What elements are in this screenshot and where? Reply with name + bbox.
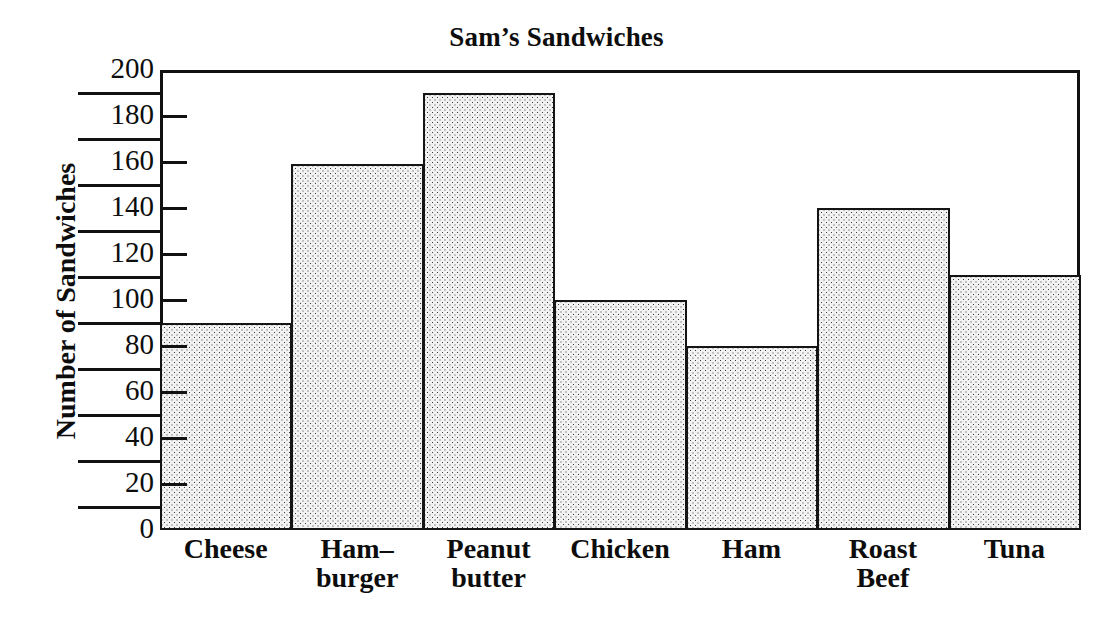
x-axis-label-line: Ham	[686, 534, 817, 563]
x-axis-label: Tuna	[949, 534, 1080, 563]
x-axis-label: Ham–burger	[291, 534, 422, 593]
y-axis-rule	[78, 322, 162, 325]
y-axis-tick-label: 200	[58, 52, 154, 85]
y-axis-tick	[161, 391, 187, 394]
y-axis-rule	[78, 506, 162, 509]
y-axis-tick-label: 40	[58, 420, 154, 453]
x-axis-label-line: Tuna	[949, 534, 1080, 563]
x-axis-labels: CheeseHam–burgerPeanutbutterChickenHamRo…	[160, 534, 1080, 624]
bars-layer	[160, 70, 1080, 530]
y-axis-tick	[161, 207, 187, 210]
bar-chart: Sam’s Sandwiches Number of Sandwiches Ch…	[0, 0, 1113, 627]
y-axis-rule	[78, 138, 162, 141]
y-axis-tick-label: 0	[58, 512, 154, 545]
x-axis-label: Chicken	[554, 534, 685, 563]
y-axis-tick-label: 180	[58, 98, 154, 131]
bar	[160, 323, 292, 530]
y-axis-rule	[78, 460, 162, 463]
y-axis-tick	[161, 115, 187, 118]
bar	[686, 346, 818, 530]
y-axis-rule	[78, 414, 162, 417]
bar	[291, 164, 423, 530]
x-axis-label-line: Chicken	[554, 534, 685, 563]
y-axis-tick	[161, 161, 187, 164]
x-axis-label-line: Cheese	[160, 534, 291, 563]
y-axis-rule	[78, 92, 162, 95]
y-axis-tick	[161, 299, 187, 302]
x-axis-label: RoastBeef	[817, 534, 948, 593]
y-axis-tick-label: 20	[58, 466, 154, 499]
y-axis-tick	[161, 483, 187, 486]
y-axis-tick-label: 160	[58, 144, 154, 177]
y-axis-tick	[161, 253, 187, 256]
y-axis-tick	[161, 345, 187, 348]
bar	[423, 93, 555, 530]
y-axis-rule	[78, 184, 162, 187]
x-axis-label: Peanutbutter	[423, 534, 554, 593]
x-axis-label: Cheese	[160, 534, 291, 563]
x-axis-label-line: butter	[423, 563, 554, 592]
chart-title: Sam’s Sandwiches	[0, 22, 1113, 53]
y-axis-tick-label: 100	[58, 282, 154, 315]
y-axis-rule	[78, 368, 162, 371]
x-axis-label-line: Roast	[817, 534, 948, 563]
x-axis-label-line: Ham–	[291, 534, 422, 563]
x-axis-label: Ham	[686, 534, 817, 563]
y-axis-tick-label: 80	[58, 328, 154, 361]
y-axis-rule	[78, 276, 162, 279]
bar	[817, 208, 949, 530]
y-axis-tick	[161, 437, 187, 440]
bar	[949, 275, 1081, 530]
y-axis-tick-label: 120	[58, 236, 154, 269]
x-axis-label-line: Beef	[817, 563, 948, 592]
bar	[554, 300, 686, 530]
x-axis-label-line: burger	[291, 563, 422, 592]
y-axis-rule	[78, 230, 162, 233]
x-axis-label-line: Peanut	[423, 534, 554, 563]
y-axis-tick-label: 60	[58, 374, 154, 407]
y-axis-tick-label: 140	[58, 190, 154, 223]
